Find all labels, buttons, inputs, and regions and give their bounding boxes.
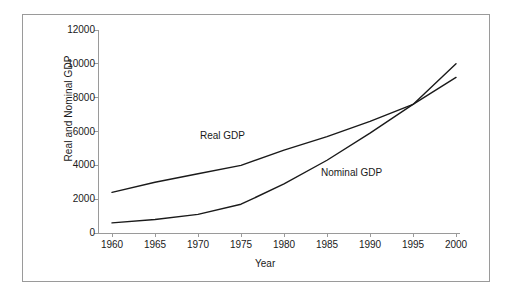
y-tick-label: 2000 bbox=[49, 193, 95, 204]
x-tick-1985: 1985 bbox=[304, 239, 350, 250]
y-tick-label: 0 bbox=[49, 227, 95, 238]
x-tick-1975: 1975 bbox=[218, 239, 264, 250]
series-line-nominal-gdp bbox=[112, 64, 456, 223]
x-tick-1960: 1960 bbox=[89, 239, 135, 250]
plot-area: 12000 10000 8000 6000 4000 2000 0 1960 1… bbox=[23, 15, 489, 281]
y-axis-title: Real and Nominal GDP bbox=[63, 29, 74, 189]
x-axis-ticks bbox=[112, 233, 456, 237]
x-axis-title: Year bbox=[255, 258, 275, 269]
x-tick-1990: 1990 bbox=[347, 239, 393, 250]
x-tick-2000: 2000 bbox=[433, 239, 479, 250]
series-label-nominal-gdp: Nominal GDP bbox=[321, 167, 382, 178]
x-tick-1970: 1970 bbox=[175, 239, 221, 250]
series-line-real-gdp bbox=[112, 77, 456, 192]
series-label-real-gdp: Real GDP bbox=[200, 130, 245, 141]
x-tick-1965: 1965 bbox=[132, 239, 178, 250]
x-tick-1980: 1980 bbox=[261, 239, 307, 250]
x-tick-1995: 1995 bbox=[390, 239, 436, 250]
chart-frame: 12000 10000 8000 6000 4000 2000 0 1960 1… bbox=[22, 14, 490, 282]
